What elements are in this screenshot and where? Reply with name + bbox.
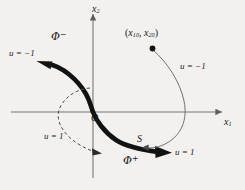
u-label-lower-left-plus-one: u = 1 (44, 132, 64, 141)
switching-curve-phi-minus (37, 61, 94, 112)
origin-label: O (91, 113, 98, 123)
y-axis-label: x2 (92, 4, 100, 15)
u-label-left-minus-one: u = −1 (9, 49, 35, 58)
initial-state-label: (x10, x20) (125, 28, 158, 39)
x-axis-label: x1 (224, 117, 232, 128)
u-label-right-minus-one: u = −1 (180, 62, 206, 71)
switching-curve-phi-plus (93, 112, 172, 158)
phi-plus-label: Φ+ (123, 155, 138, 166)
initial-state-dot (150, 46, 156, 52)
switch-point-label: S (137, 134, 142, 144)
trajectory-from-initial-state (142, 50, 186, 151)
phi-minus-label: Φ− (51, 31, 66, 42)
u-label-right-plus-one: u = 1 (175, 148, 195, 157)
phase-plane-figure: x2 x1 O Φ− Φ+ u = −1 u = −1 u = 1 u = 1 … (0, 0, 245, 190)
